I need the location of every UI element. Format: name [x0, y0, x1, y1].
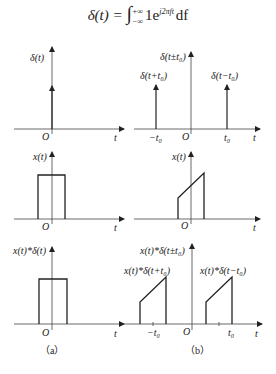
diagram-canvas: δ(t) O t δ(t±t₀) δ(t+t₀) δ(t−t₀) −t₀ O t…	[0, 0, 276, 374]
left-impulse-label: δ(t+t₀)	[140, 70, 168, 82]
panel-b-row2-signal: x(t) O t	[134, 151, 260, 233]
panel-a-row3-convolution: x(t)*δ(t) O t （a）	[12, 245, 124, 356]
right-shifted-pulse	[206, 277, 232, 324]
y-label: x(t)	[171, 151, 187, 163]
x-label: t	[253, 222, 256, 233]
panel-a-row1-delta: δ(t) O t	[14, 47, 124, 143]
left-pulse-label: x(t)*δ(t+t₀)	[123, 265, 171, 277]
right-pulse-label: x(t)*δ(t−t₀)	[199, 265, 247, 277]
panel-b-row1-shifted-delta: δ(t±t₀) δ(t+t₀) δ(t−t₀) −t₀ O t₀ t	[134, 51, 260, 143]
x-label: t	[114, 132, 117, 143]
y-label: δ(t±t₀)	[160, 51, 187, 63]
y-label: δ(t)	[30, 52, 45, 64]
origin-label: O	[42, 327, 49, 338]
pos-t0-tick: t₀	[228, 327, 235, 338]
right-impulse-label: δ(t−t₀)	[211, 70, 239, 82]
rect-pulse	[39, 279, 67, 324]
y-label: x(t)*δ(t±t₀)	[139, 245, 185, 257]
caption-b: （b）	[185, 345, 210, 356]
neg-t0-tick: −t₀	[149, 132, 163, 143]
neg-t0-tick: −t₀	[147, 327, 161, 338]
origin-label: O	[42, 131, 49, 142]
origin-label: O	[183, 326, 190, 337]
x-label: t	[114, 328, 117, 339]
x-label: t	[253, 132, 256, 143]
y-label: x(t)*δ(t)	[12, 245, 47, 257]
x-label: t	[255, 328, 258, 339]
x-label: t	[114, 222, 117, 233]
origin-label: O	[42, 221, 49, 232]
y-label: x(t)	[32, 151, 48, 163]
rect-pulse	[38, 175, 65, 219]
panel-b-row3-shifted-convolution: x(t)*δ(t±t₀) x(t)*δ(t+t₀) x(t)*δ(t−t₀) −…	[123, 244, 262, 356]
origin-label: O	[181, 220, 188, 231]
left-shifted-pulse	[140, 277, 166, 324]
panel-a-row2-signal: x(t) O t	[14, 151, 124, 233]
pos-t0-tick: t₀	[224, 132, 231, 143]
caption-a: （a）	[40, 345, 64, 356]
origin-label: O	[182, 131, 189, 142]
